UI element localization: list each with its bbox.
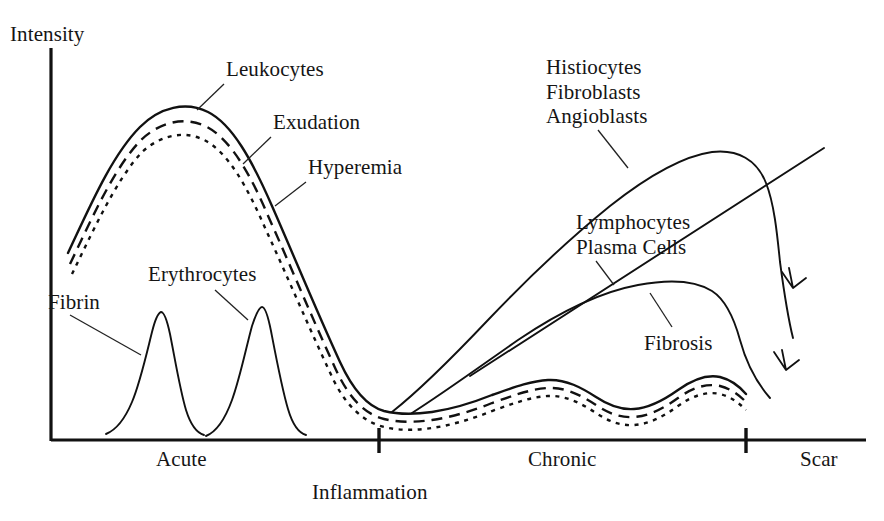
leader-leukocytes — [197, 84, 224, 110]
leader-exudation — [243, 137, 271, 164]
label-fibrosis: Fibrosis — [644, 331, 713, 356]
leader-fibrosis — [650, 293, 672, 327]
label-lymphocytes-group: Lymphocytes Plasma Cells — [576, 210, 690, 259]
plot-canvas — [0, 0, 884, 521]
inflammation-timeline-figure: Intensity Leukocytes Exudation Hyperemia… — [0, 0, 884, 521]
leader-fibrin — [70, 315, 141, 355]
leader-hyperemia — [275, 182, 306, 206]
x-tick-label-acute: Acute — [156, 447, 207, 472]
y-axis-label: Intensity — [10, 22, 84, 47]
chronic-phase-curves — [392, 148, 824, 413]
curve-erythrocytes — [206, 307, 306, 436]
arrowhead-histiocytes — [782, 268, 806, 288]
label-exudation: Exudation — [273, 110, 360, 135]
label-hyperemia: Hyperemia — [308, 155, 402, 180]
x-tick-label-chronic: Chronic — [528, 447, 596, 472]
curve-leukocytes — [68, 107, 746, 414]
x-tick-label-scar: Scar — [800, 447, 838, 472]
acute-spike-curves — [106, 307, 306, 436]
leader-lymphocytes — [596, 261, 614, 285]
label-histiocytes-group: Histiocytes Fibroblasts Angioblasts — [546, 55, 647, 129]
label-fibrin: Fibrin — [48, 290, 100, 315]
curve-histiocytes-fibroblasts-angioblasts — [392, 152, 793, 412]
leader-histiocytes — [598, 130, 628, 168]
curve-fibrin — [106, 312, 204, 435]
leader-erythrocytes — [215, 290, 248, 320]
label-leukocytes: Leukocytes — [226, 57, 324, 82]
x-axis-caption: Inflammation — [312, 480, 428, 505]
arrowheads-group — [774, 268, 806, 370]
arrowhead-lymphocytes — [774, 350, 799, 370]
label-erythrocytes: Erythrocytes — [148, 262, 257, 287]
